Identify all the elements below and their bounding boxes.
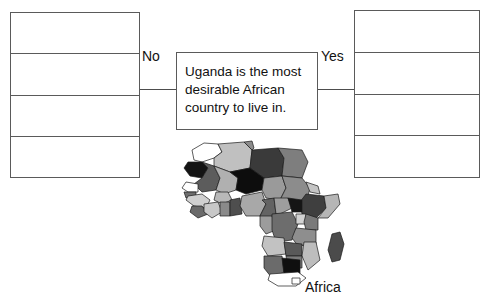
branch-label-no: No bbox=[142, 49, 160, 63]
branch-label-yes: Yes bbox=[321, 49, 344, 63]
table-row[interactable] bbox=[11, 13, 139, 54]
country-region bbox=[262, 236, 286, 256]
yes-answers-table[interactable] bbox=[354, 10, 480, 178]
table-row[interactable] bbox=[355, 11, 479, 53]
country-region bbox=[282, 258, 300, 274]
table-row[interactable] bbox=[355, 95, 479, 137]
country-region bbox=[220, 202, 230, 216]
country-region bbox=[302, 242, 320, 270]
table-row[interactable] bbox=[11, 137, 139, 177]
country-region bbox=[292, 278, 300, 284]
connector-line-yes bbox=[317, 89, 355, 90]
country-region bbox=[214, 142, 252, 172]
table-row[interactable] bbox=[11, 96, 139, 137]
country-region bbox=[204, 202, 222, 218]
africa-map-svg bbox=[168, 138, 358, 288]
statement-text: Uganda is the most desirable African cou… bbox=[185, 63, 313, 117]
table-row[interactable] bbox=[11, 54, 139, 95]
country-region bbox=[288, 198, 302, 212]
country-region bbox=[284, 242, 302, 256]
no-answers-table[interactable] bbox=[10, 12, 140, 178]
table-row[interactable] bbox=[355, 136, 479, 177]
statement-box[interactable]: Uganda is the most desirable African cou… bbox=[176, 52, 318, 130]
country-region bbox=[182, 182, 198, 192]
connector-line-no bbox=[139, 89, 177, 90]
country-region bbox=[328, 232, 344, 262]
map-caption: Africa bbox=[305, 280, 341, 294]
africa-map bbox=[168, 138, 358, 288]
table-row[interactable] bbox=[355, 53, 479, 95]
